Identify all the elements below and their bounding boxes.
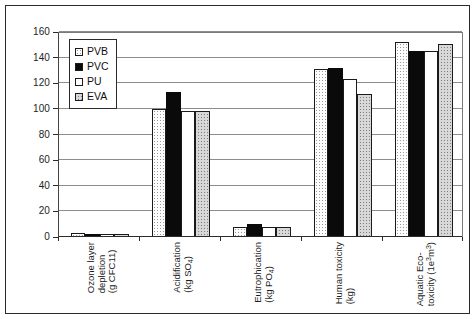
bar-group: [383, 33, 464, 237]
legend-label-pvc: PVC: [87, 61, 109, 72]
x-axis-label-line: (kg SO4): [183, 242, 195, 293]
bar-pvc: [166, 92, 181, 237]
x-axis-label: Ozone layerdepletion(g CFC11): [86, 242, 118, 293]
bar-pu: [181, 111, 196, 237]
x-axis-label-line: Eutrophication: [253, 242, 264, 303]
x-axis-tick-mark: [58, 237, 59, 241]
x-axis-label-line: Human toxicity: [334, 242, 345, 304]
x-axis-label: Aquatic Eco-toxicity (1e3m3): [415, 242, 437, 306]
x-axis-label: Acidification(kg SO4): [172, 242, 194, 293]
bar-eva: [438, 44, 453, 237]
chart-frame: 020406080100120140160 PVB PVC PU: [5, 5, 470, 314]
x-axis-label-line: (kg): [345, 242, 356, 304]
y-axis-tick-label: 140: [33, 53, 50, 63]
bar-pvc: [409, 51, 424, 237]
bar-pu: [343, 79, 358, 237]
legend-swatch-icon-pvc: [75, 63, 83, 71]
y-axis-tick: 20: [39, 206, 58, 216]
legend-item-eva: EVA: [75, 89, 109, 104]
bar-pvc: [328, 68, 343, 237]
chart-figure: 020406080100120140160 PVB PVC PU: [0, 0, 475, 319]
y-axis-tick: 40: [39, 181, 58, 191]
y-axis-tick-label: 40: [39, 181, 50, 191]
plot-area: PVB PVC PU EVA: [58, 32, 463, 237]
x-axis-labels: Ozone layerdepletion(g CFC11)Acidificati…: [58, 242, 463, 318]
legend-swatch-icon-pu: [75, 78, 83, 86]
bar-eva: [357, 94, 372, 238]
legend-swatch-icon-pvb: [75, 48, 83, 56]
y-axis-tick-label: 60: [39, 155, 50, 165]
bar-group: [140, 33, 221, 237]
y-axis-tick: 60: [39, 155, 58, 165]
bar-group: [302, 33, 383, 237]
y-axis-tick-label: 100: [33, 104, 50, 114]
legend-label-pvb: PVB: [87, 46, 108, 57]
bar-pvb: [152, 109, 167, 237]
legend-label-eva: EVA: [87, 91, 107, 102]
y-axis-tick-label: 160: [33, 27, 50, 37]
chart-legend: PVB PVC PU EVA: [69, 39, 117, 109]
x-axis-label-line: Ozone layer: [86, 242, 97, 293]
y-axis-tick-label: 20: [39, 206, 50, 216]
x-axis-label: Eutrophication(kg PO4): [253, 242, 275, 303]
legend-swatch-icon-eva: [75, 93, 83, 101]
y-axis-tick-label: 0: [44, 232, 50, 242]
x-axis-label-line: Acidification: [172, 242, 183, 293]
x-axis-label: Human toxicity(kg): [334, 242, 355, 304]
y-axis-tick-label: 120: [33, 78, 50, 88]
gridline: [59, 31, 462, 32]
legend-label-pu: PU: [87, 76, 102, 87]
bar-group: [221, 33, 302, 237]
y-axis-tick: 140: [33, 53, 58, 63]
bar-pvb: [395, 42, 410, 237]
x-axis-label-line: toxicity (1e3m3): [426, 242, 438, 306]
x-axis-tick-mark: [139, 237, 140, 241]
bar-eva: [195, 111, 210, 237]
legend-item-pvb: PVB: [75, 44, 109, 59]
x-axis-tick-mark: [462, 237, 463, 241]
y-axis: 020406080100120140160: [6, 32, 58, 237]
x-axis-label-line: (g CFC11): [107, 242, 118, 293]
x-axis-label-line: (kg PO4): [264, 242, 276, 303]
bar-pvb: [314, 69, 329, 237]
x-axis-tick-mark: [301, 237, 302, 241]
y-axis-tick: 100: [33, 104, 58, 114]
y-axis-tick: 0: [44, 232, 58, 242]
y-axis-tick-label: 80: [39, 130, 50, 140]
bar-series-layer: [59, 33, 462, 237]
x-axis-label-line: Aquatic Eco-: [415, 242, 426, 306]
bar-pu: [424, 51, 439, 237]
x-axis-tick-mark: [382, 237, 383, 241]
y-axis-tick: 80: [39, 130, 58, 140]
legend-item-pvc: PVC: [75, 59, 109, 74]
legend-item-pu: PU: [75, 74, 109, 89]
y-axis-tick: 120: [33, 78, 58, 88]
x-axis-tick-mark: [220, 237, 221, 241]
y-axis-tick: 160: [33, 27, 58, 37]
